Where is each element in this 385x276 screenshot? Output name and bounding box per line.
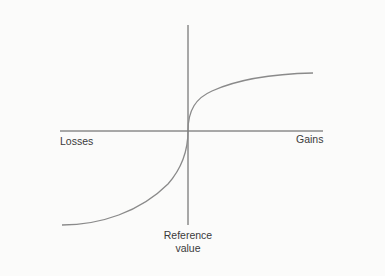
value-curve-gains bbox=[188, 73, 313, 131]
reference-value-label: Reference value bbox=[148, 229, 228, 255]
gains-label: Gains bbox=[296, 133, 323, 146]
reference-label-line2: value bbox=[148, 242, 228, 255]
losses-label: Losses bbox=[60, 135, 93, 148]
reference-label-line1: Reference bbox=[148, 229, 228, 242]
